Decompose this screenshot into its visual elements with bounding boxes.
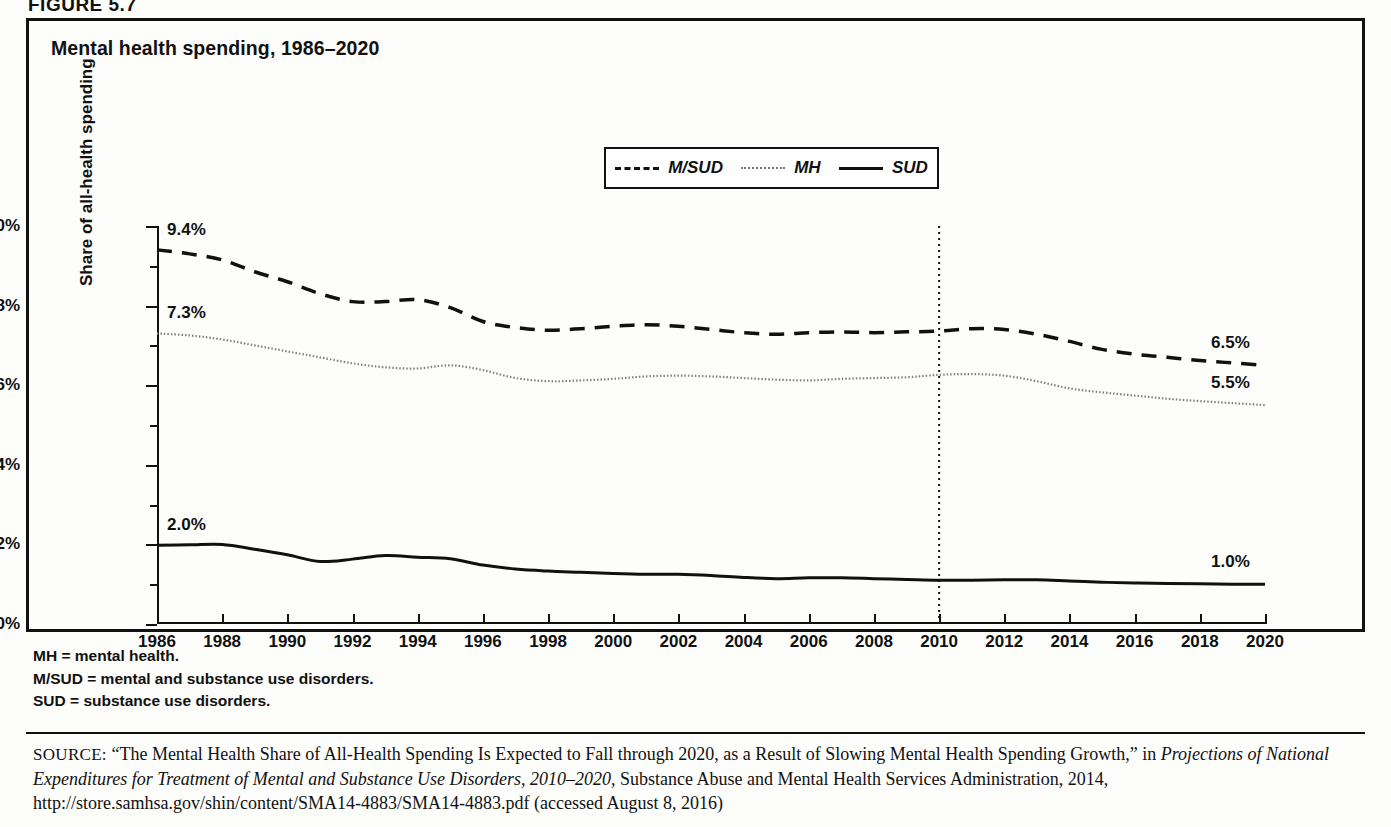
source-text-part1: “The Mental Health Share of All-Health S… [107, 744, 1161, 764]
y-tick-major [146, 226, 157, 228]
series-line-m-sud [157, 250, 1265, 365]
y-tick-minor [150, 425, 157, 427]
note-line: MH = mental health. [33, 645, 933, 668]
y-tick-major [146, 544, 157, 546]
legend-item-mh[interactable]: MH [741, 158, 820, 178]
figure-box: Mental health spending, 1986–2020 M/SUD … [26, 18, 1365, 632]
figure-number-label: FIGURE 5.7 [28, 0, 328, 16]
abbreviation-notes: MH = mental health. M/SUD = mental and s… [33, 645, 933, 713]
legend-item-sud[interactable]: SUD [839, 158, 928, 178]
label-msud-start: 9.4% [167, 220, 206, 240]
legend-item-label: MH [794, 158, 820, 178]
y-tick-minor [150, 584, 157, 586]
y-tick-minor [150, 266, 157, 268]
chart-title: Mental health spending, 1986–2020 [51, 37, 379, 60]
y-tick-label: 10% [0, 216, 20, 236]
legend-item-label: M/SUD [668, 158, 723, 178]
note-line: SUD = substance use disorders. [33, 690, 933, 713]
y-tick-label: 0% [0, 614, 20, 634]
x-tick [1265, 614, 1267, 624]
y-tick-minor [150, 505, 157, 507]
legend-item-msud[interactable]: M/SUD [615, 158, 723, 178]
label-mh-end: 5.5% [1211, 373, 1250, 393]
y-tick-major [146, 624, 157, 626]
y-tick-major [146, 385, 157, 387]
y-tick-label: 4% [0, 455, 20, 475]
y-tick-label: 2% [0, 534, 20, 554]
series-line-sud [157, 544, 1265, 584]
source-divider [26, 732, 1365, 734]
chart-legend: M/SUD MH SUD [604, 147, 939, 189]
label-sud-end: 1.0% [1211, 552, 1250, 572]
label-msud-end: 6.5% [1211, 333, 1250, 353]
series-canvas [157, 226, 1265, 624]
y-axis-title: Share of all-health spending [77, 6, 97, 286]
series-line-mh [157, 333, 1265, 405]
label-sud-start: 2.0% [167, 515, 206, 535]
y-tick-label: 8% [0, 296, 20, 316]
note-line: M/SUD = mental and substance use disorde… [33, 668, 933, 691]
legend-item-label: SUD [892, 158, 928, 178]
y-tick-label: 6% [0, 375, 20, 395]
source-citation: SOURCE: “The Mental Health Share of All-… [33, 742, 1363, 815]
y-tick-minor [150, 345, 157, 347]
plot-area: Share of all-health spending 0%2%4%6%8%1… [157, 226, 1265, 624]
y-tick-major [146, 306, 157, 308]
y-tick-major [146, 465, 157, 467]
label-mh-start: 7.3% [167, 303, 206, 323]
source-kicker: SOURCE: [33, 745, 107, 764]
x-tick-label: 2020 [1225, 632, 1305, 652]
